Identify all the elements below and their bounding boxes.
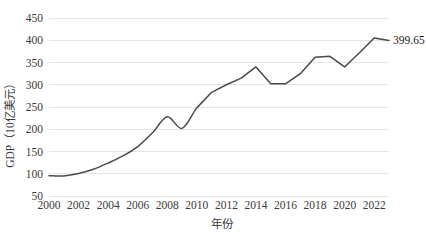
x-tick-label: 2014 <box>244 199 267 211</box>
x-tick-label: 2010 <box>185 199 208 211</box>
y-tick-label: 250 <box>26 101 44 113</box>
y-tick-label: 300 <box>26 79 44 91</box>
gdp-line-chart: 50100150200250300350400450 2000200220042… <box>0 0 426 242</box>
x-tick-label: 2002 <box>67 199 90 211</box>
chart-canvas: 50100150200250300350400450 2000200220042… <box>0 0 426 242</box>
x-tick-label: 2000 <box>38 199 61 211</box>
x-tick-label: 2006 <box>126 199 149 211</box>
x-axis-tick-labels: 2000200220042006200820102012201420162018… <box>38 199 386 211</box>
y-tick-label: 400 <box>26 34 44 46</box>
y-tick-label: 150 <box>26 146 44 158</box>
x-axis-title: 年份 <box>211 217 234 230</box>
x-tick-label: 2022 <box>363 199 386 211</box>
y-tick-label: 200 <box>26 123 44 135</box>
y-tick-label: 450 <box>26 12 44 24</box>
x-tick-label: 2020 <box>333 199 356 211</box>
y-tick-label: 350 <box>26 57 44 69</box>
x-tick-label: 2016 <box>274 199 297 211</box>
x-tick-label: 2018 <box>304 199 327 211</box>
x-tick-label: 2004 <box>97 199 120 211</box>
y-tick-label: 100 <box>26 168 44 180</box>
gridlines <box>49 18 389 196</box>
x-tick-label: 2012 <box>215 199 238 211</box>
y-axis-title: GDP（10亿美元） <box>3 78 16 168</box>
end-point-value-label: 399.65 <box>393 34 425 46</box>
y-axis-tick-labels: 50100150200250300350400450 <box>26 12 44 202</box>
x-tick-label: 2008 <box>156 199 179 211</box>
